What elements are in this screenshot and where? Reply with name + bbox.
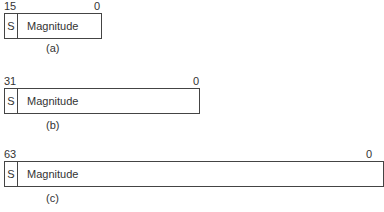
magnitude-field: Magnitude xyxy=(27,162,78,186)
magnitude-field: Magnitude xyxy=(27,89,78,113)
caption: (a) xyxy=(46,42,59,54)
lsb-label: 0 xyxy=(366,149,372,160)
sign-bit: S xyxy=(5,162,18,186)
msb-label: 31 xyxy=(4,76,16,87)
lsb-label: 0 xyxy=(193,76,199,87)
sign-bit: S xyxy=(5,14,18,38)
magnitude-field: Magnitude xyxy=(27,14,78,38)
sign-bit: S xyxy=(5,89,18,113)
register-box: S Magnitude xyxy=(4,88,200,114)
register-box: S Magnitude xyxy=(4,161,384,187)
register-box: S Magnitude xyxy=(4,13,102,39)
caption: (b) xyxy=(46,119,59,131)
lsb-label: 0 xyxy=(94,1,100,12)
caption: (c) xyxy=(46,192,59,204)
msb-label: 63 xyxy=(4,149,16,160)
msb-label: 15 xyxy=(4,1,16,12)
